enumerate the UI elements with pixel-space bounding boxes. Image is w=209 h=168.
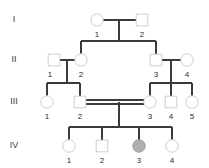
generation-label-I: I [13,14,16,24]
individual-III-1-circle-female[interactable] [41,96,53,108]
individual-IV-1-circle-female[interactable] [63,140,75,152]
individual-III-4-square-male[interactable] [165,96,177,108]
individual-I-1-circle-female[interactable] [91,14,103,26]
individual-I-2-square-male[interactable] [136,14,148,26]
individual-IV-2-square-male[interactable] [96,140,108,152]
individual-III-4-id-label: 4 [169,112,174,121]
individual-III-3-circle-female[interactable] [144,96,156,108]
individual-II-4-circle-female[interactable] [181,54,193,66]
individual-III-2-square-male[interactable] [74,96,86,108]
pedigree-chart: 121234123451234 IIIIIIIV [0,0,209,168]
generation-label-III: III [10,96,18,106]
generation-label-II: II [11,54,16,64]
individual-IV-1-id-label: 1 [67,156,72,165]
individual-II-3-id-label: 3 [154,70,159,79]
generation-label-IV: IV [10,140,19,150]
individual-II-4-id-label: 4 [185,70,190,79]
generation-labels: IIIIIIIV [10,14,19,150]
pedigree-canvas: 121234123451234 IIIIIIIV [0,0,209,168]
individual-II-2-circle-female[interactable] [75,54,87,66]
individual-IV-3-circle-female[interactable] [133,140,145,152]
individual-II-1-id-label: 1 [48,70,53,79]
individual-I-2-id-label: 2 [140,30,145,39]
individual-III-5-circle-female[interactable] [186,96,198,108]
individual-IV-2-id-label: 2 [100,156,105,165]
individual-III-2-id-label: 2 [78,112,83,121]
individual-II-3-square-male[interactable] [150,54,162,66]
individual-II-2-id-label: 2 [79,70,84,79]
individual-IV-4-circle-female[interactable] [166,140,178,152]
individual-IV-4-id-label: 4 [170,156,175,165]
individual-III-1-id-label: 1 [45,112,50,121]
individual-III-3-id-label: 3 [148,112,153,121]
connection-lines [47,20,192,140]
individual-III-5-id-label: 5 [190,112,195,121]
individual-IV-3-id-label: 3 [137,156,142,165]
individual-I-1-id-label: 1 [95,30,100,39]
individual-II-1-square-male[interactable] [48,54,60,66]
